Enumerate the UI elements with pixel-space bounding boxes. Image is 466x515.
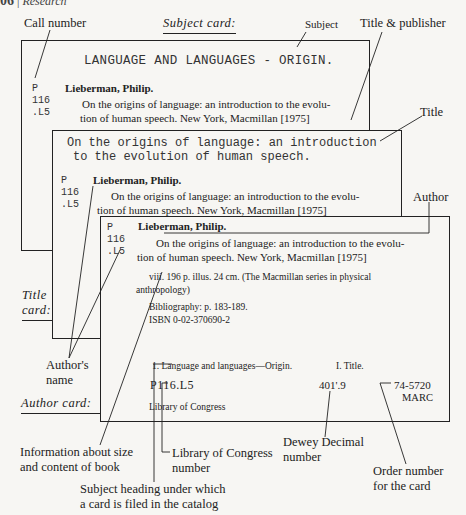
- label-dewey: Dewey Decimal number: [283, 435, 364, 465]
- label-title-publisher: Title & publisher: [360, 16, 446, 31]
- label-author: Author: [413, 190, 448, 205]
- subject-tracing: 1. Language and languages—Origin.: [152, 360, 292, 373]
- page-header: 06 | Research: [0, 0, 67, 9]
- title-line-2: tion of human speech. New York, Macmilla…: [137, 250, 367, 264]
- title-tracing: I. Title.: [336, 360, 364, 373]
- author-card: P 116 .L5 Lieberman, Philip. On the orig…: [100, 216, 450, 422]
- title-line-1: On the origins of language: an introduct…: [111, 189, 359, 203]
- title-line-2: tion of human speech. New York, Macmilla…: [97, 203, 327, 217]
- label-authors-name: Author's name: [46, 358, 89, 388]
- label-subject-heading: Subject heading under which a card is fi…: [80, 482, 225, 512]
- label-loc-number: Library of Congress number: [172, 446, 273, 476]
- dewey-number: 401'.9: [319, 379, 346, 391]
- collation-line-2: anthropology): [136, 284, 190, 297]
- label-subject: Subject: [305, 17, 338, 32]
- author-entry: Lieberman, Philip.: [138, 220, 226, 232]
- title-line-1: On the origins of language: an introduct…: [156, 236, 404, 250]
- call-number: P 116 .L5: [107, 222, 125, 258]
- lc-number: P116.L5: [150, 378, 194, 393]
- page-section: Research: [22, 0, 66, 8]
- collation-line-1: viii. 196 p. illus. 24 cm. (The Macmilla…: [149, 271, 371, 284]
- subject-heading: LANGUAGE AND LANGUAGES - ORIGIN.: [84, 54, 334, 68]
- label-info-size: Information about size and content of bo…: [20, 445, 133, 475]
- author-entry: Lieberman, Philip.: [93, 174, 181, 186]
- title-heading-line-2: to the evolution of human speech.: [73, 151, 311, 164]
- library-of-congress: Library of Congress: [149, 401, 226, 414]
- call-number: P 116 .L5: [61, 175, 79, 211]
- label-title-card: Title card:: [22, 288, 52, 321]
- call-number: P 116 .L5: [32, 83, 50, 119]
- order-number: 74-5720: [394, 379, 431, 391]
- marc-tag: MARC: [402, 392, 433, 403]
- label-call-number: Call number: [24, 16, 86, 31]
- author-entry: Lieberman, Philip.: [65, 82, 153, 94]
- label-order-number: Order number for the card: [373, 464, 443, 494]
- title-heading-line-1: On the origins of language: an introduct…: [67, 137, 377, 150]
- title-line-1: On the origins of language: an introduct…: [82, 97, 330, 111]
- title-line-2: tion of human speech. New York, Macmilla…: [80, 111, 310, 125]
- isbn: ISBN 0-02-370690-2: [149, 314, 230, 327]
- bibliography-note: Bibliography: p. 183-189.: [149, 301, 248, 314]
- label-title: Title: [420, 105, 443, 120]
- label-subject-card: Subject card:: [163, 16, 236, 34]
- label-author-card: Author card:: [21, 396, 100, 414]
- page-number: 06: [0, 0, 14, 8]
